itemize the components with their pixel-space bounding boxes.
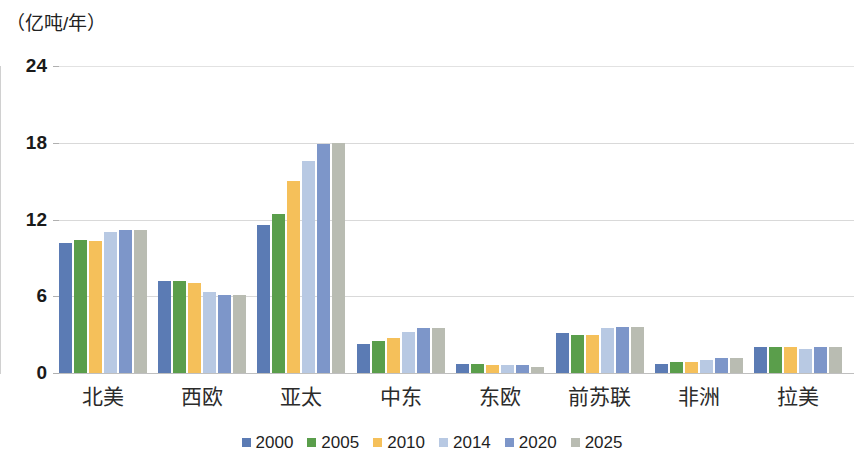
bar[interactable] xyxy=(158,281,171,373)
bar[interactable] xyxy=(173,281,186,373)
legend-label: 2000 xyxy=(256,434,294,451)
legend-label: 2005 xyxy=(321,434,359,451)
bar[interactable] xyxy=(302,161,315,373)
bar[interactable] xyxy=(601,328,614,373)
bar[interactable] xyxy=(402,332,415,373)
bar[interactable] xyxy=(134,230,147,373)
bar[interactable] xyxy=(188,283,201,373)
bar[interactable] xyxy=(586,335,599,373)
legend-item[interactable]: 2025 xyxy=(571,434,623,451)
legend-label: 2014 xyxy=(453,434,491,451)
bar[interactable] xyxy=(317,144,330,373)
x-axis-tick-label: 东欧 xyxy=(451,380,550,410)
bar[interactable] xyxy=(631,327,644,373)
bar[interactable] xyxy=(556,333,569,373)
bar-group-bars xyxy=(655,66,743,373)
y-axis-tick-label: 12 xyxy=(5,210,47,229)
bar[interactable] xyxy=(700,360,713,373)
legend-swatch-icon xyxy=(439,438,448,447)
legend-swatch-icon xyxy=(307,438,316,447)
bar[interactable] xyxy=(272,214,285,373)
legend-item[interactable]: 2020 xyxy=(505,434,557,451)
bar[interactable] xyxy=(769,347,782,373)
bar-group-bars xyxy=(754,66,842,373)
bar[interactable] xyxy=(287,181,300,373)
bar-group-bars xyxy=(158,66,246,373)
bar[interactable] xyxy=(372,341,385,373)
y-axis-unit-label: （亿吨/年） xyxy=(6,8,106,35)
legend-swatch-icon xyxy=(373,438,382,447)
legend-swatch-icon xyxy=(571,438,580,447)
x-axis-tick-label: 前苏联 xyxy=(550,380,649,410)
bar[interactable] xyxy=(417,328,430,373)
bar[interactable] xyxy=(203,292,216,373)
bar[interactable] xyxy=(685,362,698,374)
bar[interactable] xyxy=(814,347,827,373)
bar[interactable] xyxy=(616,327,629,373)
bar[interactable] xyxy=(218,295,231,373)
bar[interactable] xyxy=(471,364,484,373)
bar-chart: （亿吨/年） 06121824 北美西欧亚太中东东欧前苏联非洲拉美 200020… xyxy=(0,0,864,459)
y-axis-tick-mark xyxy=(53,373,59,374)
bar-group xyxy=(357,66,445,373)
bar[interactable] xyxy=(715,358,728,373)
bar[interactable] xyxy=(655,364,668,373)
bar[interactable] xyxy=(387,338,400,373)
bar[interactable] xyxy=(257,225,270,373)
legend-label: 2010 xyxy=(387,434,425,451)
bar[interactable] xyxy=(456,364,469,373)
bar[interactable] xyxy=(730,358,743,373)
bar-group xyxy=(655,66,743,373)
chart-legend: 200020052010201420202025 xyxy=(0,434,864,451)
y-axis-tick-label: 6 xyxy=(5,286,47,305)
x-axis-tick-label: 非洲 xyxy=(649,380,748,410)
bar[interactable] xyxy=(571,335,584,373)
bar[interactable] xyxy=(357,344,370,373)
bar[interactable] xyxy=(784,347,797,373)
legend-label: 2020 xyxy=(519,434,557,451)
legend-item[interactable]: 2014 xyxy=(439,434,491,451)
bar-group xyxy=(456,66,544,373)
legend-item[interactable]: 2005 xyxy=(307,434,359,451)
bar[interactable] xyxy=(531,367,544,373)
x-axis-tick-label: 拉美 xyxy=(749,380,848,410)
bar[interactable] xyxy=(119,230,132,373)
x-axis-tick-label: 中东 xyxy=(351,380,450,410)
bar-group-bars xyxy=(257,66,345,373)
bar-group xyxy=(556,66,644,373)
bar[interactable] xyxy=(754,347,767,373)
legend-item[interactable]: 2010 xyxy=(373,434,425,451)
y-axis-tick-label: 0 xyxy=(5,363,47,382)
bar[interactable] xyxy=(74,240,87,373)
y-axis-tick-label: 18 xyxy=(5,133,47,152)
bar[interactable] xyxy=(89,241,102,373)
y-axis-tick-label: 24 xyxy=(5,56,47,75)
bar-group-bars xyxy=(357,66,445,373)
bar[interactable] xyxy=(432,328,445,373)
bar-group-bars xyxy=(59,66,147,373)
bar-group xyxy=(59,66,147,373)
bar[interactable] xyxy=(104,232,117,373)
bar-group xyxy=(158,66,246,373)
legend-item[interactable]: 2000 xyxy=(242,434,294,451)
x-axis-tick-label: 北美 xyxy=(53,380,152,410)
bar[interactable] xyxy=(233,295,246,373)
bar[interactable] xyxy=(670,362,683,374)
bar[interactable] xyxy=(59,243,72,373)
legend-swatch-icon xyxy=(242,438,251,447)
bar[interactable] xyxy=(501,365,514,373)
bar[interactable] xyxy=(799,349,812,373)
x-axis-tick-label: 西欧 xyxy=(152,380,251,410)
plot-area xyxy=(59,66,854,373)
gridline xyxy=(59,373,854,374)
bar-group xyxy=(257,66,345,373)
x-axis-tick-label: 亚太 xyxy=(252,380,351,410)
legend-label: 2025 xyxy=(585,434,623,451)
bar[interactable] xyxy=(332,143,345,373)
bar[interactable] xyxy=(486,365,499,373)
bar[interactable] xyxy=(829,347,842,373)
bar-group xyxy=(754,66,842,373)
bar-group-bars xyxy=(456,66,544,373)
bar[interactable] xyxy=(516,365,529,373)
y-axis-line xyxy=(0,66,1,374)
